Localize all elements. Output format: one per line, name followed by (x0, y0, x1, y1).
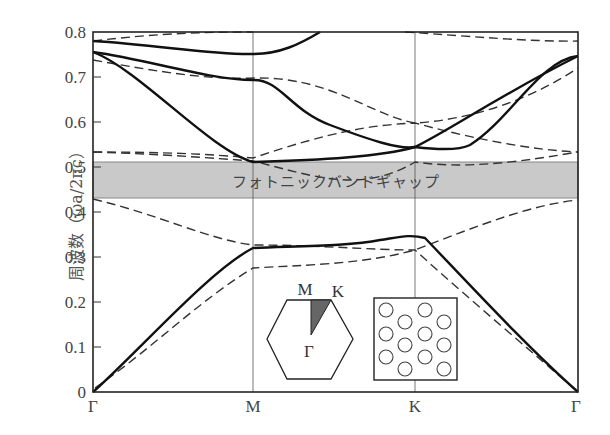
svg-text:0: 0 (78, 383, 87, 402)
svg-text:0.6: 0.6 (65, 113, 86, 132)
svg-text:Γ: Γ (88, 397, 98, 416)
svg-text:Γ: Γ (304, 342, 314, 361)
svg-text:Γ: Γ (571, 397, 581, 416)
brillouin-zone-inset: M K Γ (267, 280, 353, 379)
y-ticks (93, 77, 101, 347)
svg-text:0.1: 0.1 (65, 338, 86, 357)
band-diagram: 0 0.1 0.2 0.3 0.4 0.5 0.6 0.7 0.8 Γ M K … (0, 0, 610, 435)
svg-text:K: K (332, 282, 345, 301)
svg-text:0.7: 0.7 (65, 68, 87, 87)
svg-text:0.8: 0.8 (65, 23, 86, 42)
svg-text:M: M (245, 397, 260, 416)
svg-text:M: M (297, 280, 312, 299)
lattice-inset (374, 298, 457, 380)
band-gap-label: フォトニックバンドギャップ (93, 169, 578, 195)
y-axis-label: 周波数（ωa/2πc） (63, 143, 87, 281)
x-tick-labels: Γ M K Γ (88, 397, 581, 416)
svg-text:0.2: 0.2 (65, 293, 86, 312)
svg-text:K: K (409, 397, 422, 416)
